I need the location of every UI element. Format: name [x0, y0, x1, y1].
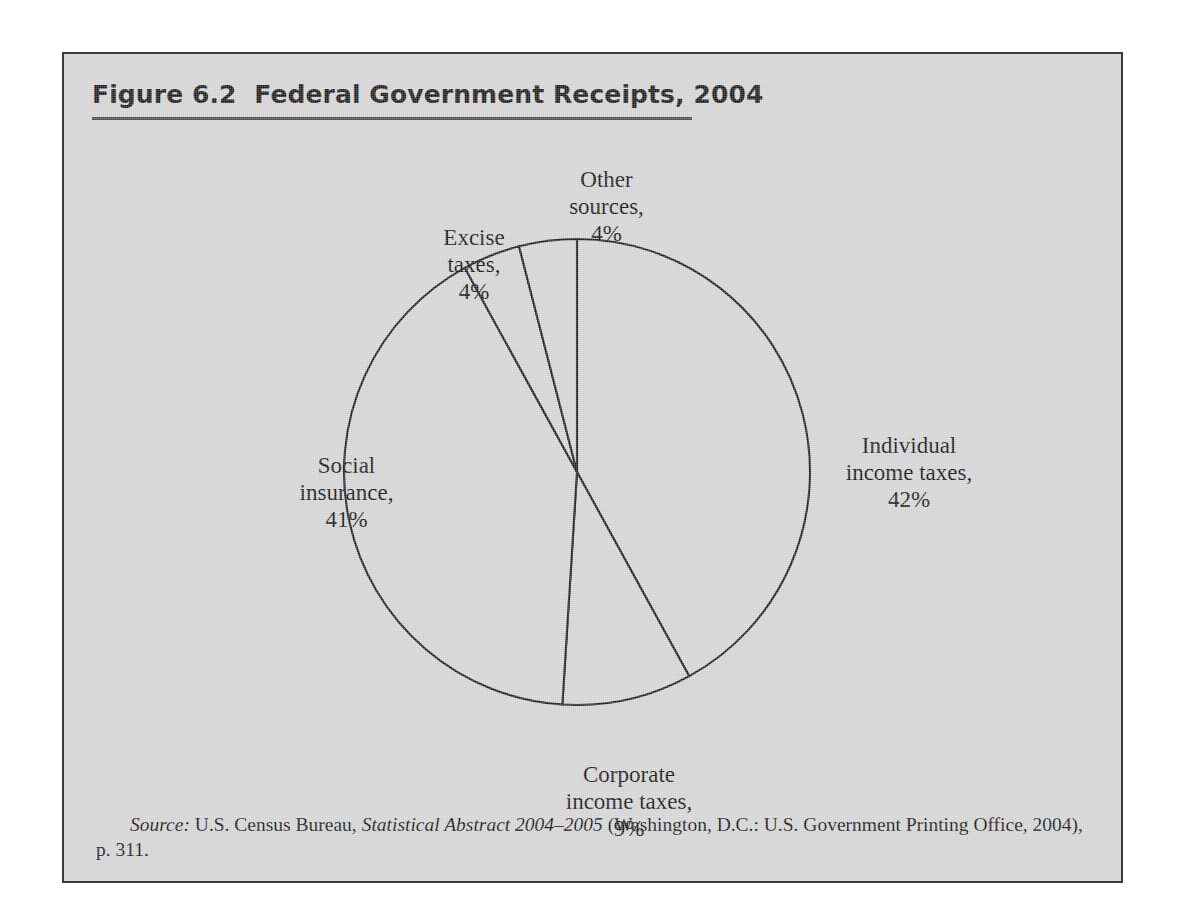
slice-label-individual-income-taxes: Individual income taxes, 42%: [804, 432, 1014, 513]
source-publisher: U.S. Census Bureau,: [190, 814, 362, 835]
slice-label-excise-taxes: Excise taxes, 4%: [409, 224, 539, 305]
pie-chart: Individual income taxes, 42% Corporate i…: [64, 54, 1125, 885]
figure-panel: Figure 6.2 Federal Government Receipts, …: [62, 52, 1123, 883]
source-prefix: Source:: [130, 814, 190, 835]
slice-label-other-sources: Other sources, 4%: [534, 166, 679, 247]
source-work-title: Statistical Abstract 2004–2005: [362, 814, 603, 835]
slice-label-social-insurance: Social insurance, 41%: [254, 452, 439, 533]
source-note: Source: U.S. Census Bureau, Statistical …: [96, 812, 1096, 862]
